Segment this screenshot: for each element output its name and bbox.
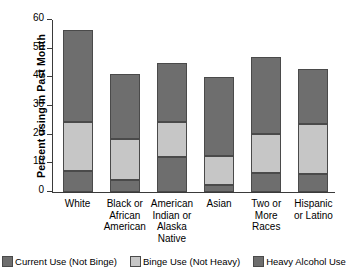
x-axis-category-label: Hispanicor Latino [282,198,344,221]
bar-segment-binge-use [63,122,93,171]
x-axis-line [52,192,335,193]
bar-3 [157,63,187,192]
legend-item-label: Heavy Alcohol Use [266,256,346,267]
y-axis-tick: 60 [47,19,52,20]
y-axis-tick-label: 10 [33,155,44,166]
bar-segment-heavy-alcohol-use [298,174,328,192]
y-axis-tick: 10 [47,162,52,163]
y-axis-tick-label: 20 [33,127,44,138]
legend-item-label: Binge Use (Not Heavy) [143,256,240,267]
y-axis-tick: 20 [47,134,52,135]
bar-segment-current-use [298,69,328,125]
x-axis-category-line: Alaska [141,221,203,233]
bar-segment-heavy-alcohol-use [63,171,93,193]
bar-segment-current-use [204,77,234,156]
legend-item-1[interactable]: Current Use (Not Binge) [2,256,117,267]
legend-swatch-binge-use [130,256,141,267]
bar-segment-heavy-alcohol-use [204,185,234,192]
y-axis-tick: 50 [47,48,52,49]
bar-segment-binge-use [251,134,281,172]
legend-item-label: Current Use (Not Binge) [15,256,117,267]
chart-legend: Current Use (Not Binge)Binge Use (Not He… [0,256,348,267]
legend-item-2[interactable]: Binge Use (Not Heavy) [130,256,240,267]
y-axis-tick-label: 30 [33,98,44,109]
plot-area: 0102030405060 WhiteBlack orAfricanAmeric… [52,20,335,192]
bar-2 [110,74,140,192]
y-axis-tick: 40 [47,76,52,77]
x-axis-category-line: Hispanic [282,198,344,210]
legend-swatch-current-use [2,256,13,267]
chart-figure: Percent using in Past Month 010203040506… [0,0,348,280]
bar-4 [204,77,234,192]
legend-swatch-heavy-alcohol-use [253,256,264,267]
bar-segment-current-use [157,63,187,122]
x-axis-category-line: or Latino [282,210,344,222]
x-axis-category-line: Races [235,221,297,233]
bar-segment-current-use [63,30,93,122]
bar-segment-current-use [251,57,281,134]
legend-item-3[interactable]: Heavy Alcohol Use [253,256,346,267]
y-axis-tick-label: 50 [33,41,44,52]
bar-segment-heavy-alcohol-use [251,173,281,192]
bar-segment-binge-use [110,139,140,180]
bar-segment-binge-use [157,122,187,158]
x-axis-category-line: Indian or [141,210,203,222]
y-axis-tick: 0 [47,191,52,192]
bar-segment-current-use [110,74,140,139]
y-axis-tick-label: 0 [38,184,44,195]
bar-segment-heavy-alcohol-use [110,180,140,192]
y-axis-tick-label: 40 [33,69,44,80]
y-axis-tick-label: 60 [33,12,44,23]
bar-6 [298,69,328,192]
bar-segment-heavy-alcohol-use [157,157,187,192]
y-axis-tick: 30 [47,105,52,106]
y-axis-line [52,20,53,192]
x-axis-category-line: Native [141,233,203,245]
bar-segment-binge-use [204,156,234,185]
bar-5 [251,57,281,192]
bar-segment-binge-use [298,124,328,173]
bar-1 [63,30,93,192]
